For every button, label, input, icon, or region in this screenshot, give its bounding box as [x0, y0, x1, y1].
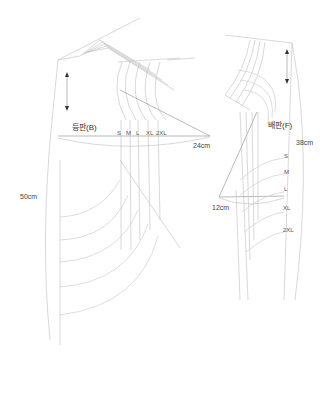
back-size-m: M	[126, 130, 131, 136]
back-size-l: L	[136, 130, 139, 136]
back-panel-outline	[45, 18, 210, 345]
front-length-arrow-icon	[285, 49, 289, 84]
back-length-label: 50cm	[20, 193, 37, 200]
front-size-l: L	[284, 186, 287, 192]
back-width-label: 24cm	[193, 142, 210, 149]
front-width-label: 12cm	[212, 204, 229, 211]
front-size-xl: XL	[283, 205, 290, 211]
back-size-2xl: 2XL	[156, 130, 167, 136]
back-panel-title: 등판(B)	[72, 124, 97, 132]
front-size-m: M	[284, 169, 289, 175]
front-length-label: 38cm	[296, 139, 313, 146]
back-size-s: S	[117, 130, 121, 136]
back-size-xl: XL	[146, 130, 153, 136]
back-length-arrow-icon	[65, 72, 69, 111]
front-size-s: S	[284, 153, 288, 159]
front-panel-outline	[167, 35, 303, 300]
front-panel-title: 배판(F)	[268, 122, 292, 130]
front-size-2xl: 2XL	[283, 227, 294, 233]
